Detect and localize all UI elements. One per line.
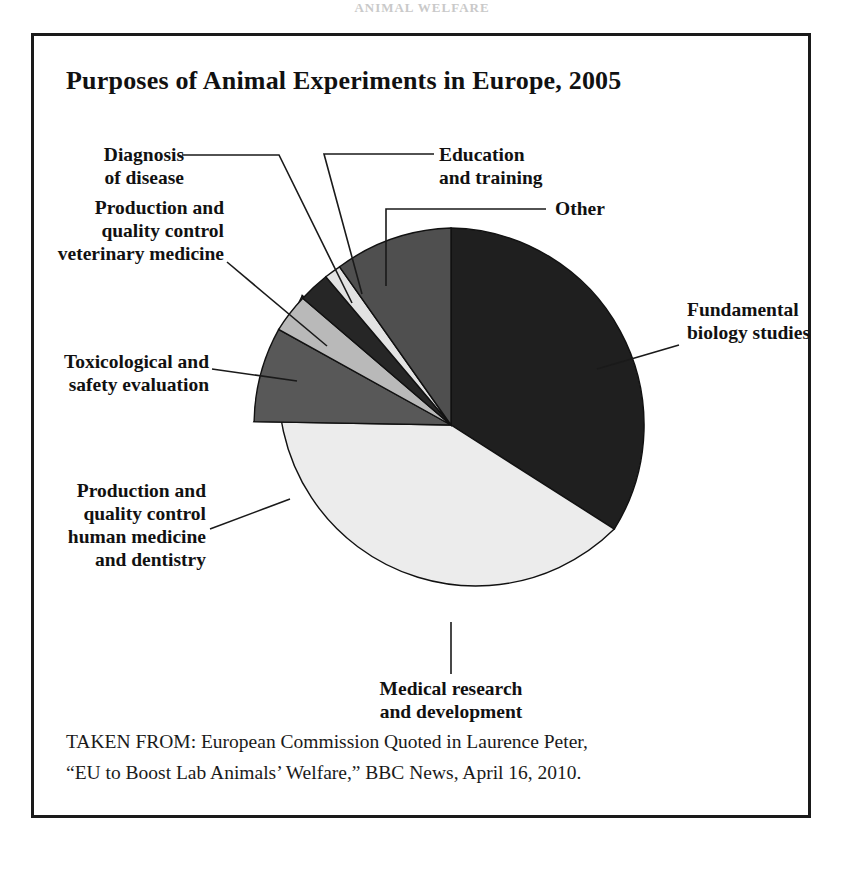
source-attribution: TAKEN FROM: European Commission Quoted i… [66,726,766,788]
label-toxicological-and-safety-evaluation: Toxicological and safety evaluation [24,350,209,396]
label-medical-research-and-development: Medical research and development [331,677,571,723]
page-running-header: ANIMAL WELFARE [0,0,844,16]
label-production-human-medicine: Production and quality control human med… [24,479,206,571]
label-other: Other [555,197,675,220]
figure-container: Purposes of Animal Experiments in Europe… [31,33,811,818]
label-fundamental-biology-studies: Fundamental biology studies [687,298,844,344]
pie-slices [254,228,644,586]
pie-chart: Diagnosis of disease Education and train… [34,36,808,716]
leader-line-production-human-medicine [210,499,290,529]
label-diagnosis-of-disease: Diagnosis of disease [44,143,184,189]
label-production-veterinary-medicine: Production and quality control veterinar… [34,196,224,265]
label-education-and-training: Education and training [439,143,639,189]
